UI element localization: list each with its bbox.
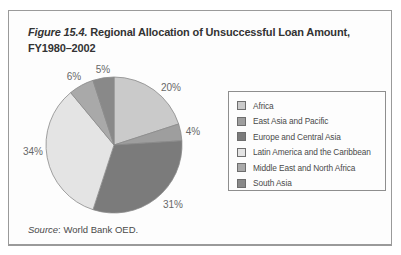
legend-label-europe-and-central-asia: Europe and Central Asia [253,132,341,142]
legend-label-south-asia: South Asia [253,178,292,188]
figure-title-line2: FY1980–2002 [28,42,95,54]
figure-title-line1: Regional Allocation of Unsuccessful Loan… [90,26,350,38]
legend-swatch-africa [237,101,246,110]
source-note: Source: World Bank OED. [28,224,138,235]
pie-label-europe-and-central-asia: 31% [163,199,183,210]
legend-item-east-asia-and-pacific: East Asia and Pacific [237,114,385,130]
legend-label-middle-east-and-north-africa: Middle East and North Africa [253,163,355,173]
legend-swatch-europe-and-central-asia [237,132,246,141]
pie-label-africa: 20% [161,82,181,93]
figure-number: Figure 15.4. [28,26,87,38]
legend-item-south-asia: South Asia [237,176,385,192]
legend-label-latin-america-and-the-caribbean: Latin America and the Caribbean [253,147,371,157]
pie-label-middle-east-and-north-africa: 6% [67,71,81,82]
legend-item-middle-east-and-north-africa: Middle East and North Africa [237,160,385,176]
pie-chart [45,76,183,214]
pie-label-east-asia-and-pacific: 4% [186,126,200,137]
legend-swatch-middle-east-and-north-africa [237,163,246,172]
figure-frame: Figure 15.4. Regional Allocation of Unsu… [8,10,392,246]
legend-swatch-east-asia-and-pacific [237,117,246,126]
legend-swatch-south-asia [237,179,246,188]
legend-label-east-asia-and-pacific: East Asia and Pacific [253,116,328,126]
legend-item-latin-america-and-the-caribbean: Latin America and the Caribbean [237,145,385,161]
pie-label-south-asia: 5% [96,64,110,75]
legend-swatch-latin-america-and-the-caribbean [237,148,246,157]
legend-box: AfricaEast Asia and PacificEurope and Ce… [228,91,386,191]
legend-item-europe-and-central-asia: Europe and Central Asia [237,129,385,145]
source-text: : World Bank OED. [58,224,138,235]
legend-label-africa: Africa [253,101,274,111]
figure-title: Figure 15.4. Regional Allocation of Unsu… [28,24,380,56]
source-label: Source [28,224,58,235]
legend-item-africa: Africa [237,98,385,114]
pie-label-latin-america-and-the-caribbean: 34% [23,146,43,157]
